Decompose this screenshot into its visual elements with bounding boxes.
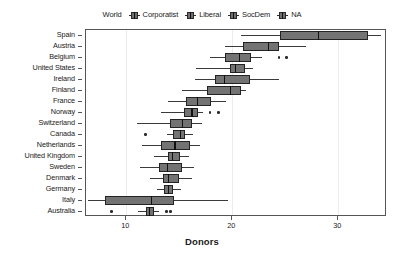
- median-line: [239, 53, 240, 62]
- boxplot-row: [86, 41, 385, 52]
- median-line: [230, 86, 231, 95]
- boxplot-row: [86, 63, 385, 74]
- legend-label: SocDem: [242, 11, 270, 19]
- legend-label: NA: [291, 11, 301, 19]
- boxplot-row: [86, 162, 385, 173]
- median-line: [168, 185, 169, 194]
- y-tick-label-ireland: Ireland: [53, 75, 75, 82]
- boxplot-row: [86, 107, 385, 118]
- outlier-point: [217, 111, 220, 114]
- y-tick-label-italy: Italy: [62, 196, 75, 203]
- y-tick-mark: [78, 200, 82, 201]
- y-tick-mark: [78, 145, 82, 146]
- legend-entry-corporatist: Corporatist: [129, 11, 179, 19]
- y-axis: SpainAustriaBelgiumUnited StatesIrelandF…: [0, 29, 82, 216]
- y-tick-label-belgium: Belgium: [49, 53, 75, 60]
- outlier-point: [110, 210, 113, 213]
- x-tick-label: 20: [227, 222, 235, 229]
- y-tick-mark: [78, 178, 82, 179]
- y-tick-mark: [78, 123, 82, 124]
- chart-legend: WorldCorporatistLiberalSocDemNA: [0, 11, 404, 19]
- y-tick-mark: [78, 90, 82, 91]
- x-tick-label: 10: [121, 222, 129, 229]
- box-iqr: [215, 75, 250, 84]
- boxplot-row: [86, 151, 385, 162]
- box-iqr: [170, 119, 192, 128]
- y-tick-label-austria: Austria: [53, 42, 75, 49]
- y-tick-label-switzerland: Switzerland: [38, 119, 75, 126]
- outlier-point: [209, 111, 212, 114]
- x-tick-mark: [231, 216, 232, 220]
- box-iqr: [230, 64, 245, 73]
- median-line: [180, 130, 181, 139]
- median-line: [182, 119, 183, 128]
- boxplot-row: [86, 195, 385, 206]
- median-line: [197, 97, 198, 106]
- box-iqr: [186, 97, 211, 106]
- y-tick-mark: [78, 57, 82, 58]
- y-tick-mark: [78, 156, 82, 157]
- y-tick-mark: [78, 46, 82, 47]
- outlier-point: [165, 210, 168, 213]
- median-line: [168, 174, 169, 183]
- y-tick-mark: [78, 101, 82, 102]
- box-iqr: [243, 42, 279, 51]
- legend-entry-liberal: Liberal: [185, 11, 221, 19]
- median-line: [151, 196, 152, 205]
- boxplot-row: [86, 52, 385, 63]
- legend-box-icon: [129, 11, 140, 19]
- boxplot-row: [86, 129, 385, 140]
- legend-box-icon: [185, 11, 196, 19]
- plot-panel: [85, 29, 386, 216]
- y-tick-mark: [78, 189, 82, 190]
- y-tick-mark: [78, 68, 82, 69]
- y-tick-label-germany: Germany: [46, 185, 75, 192]
- median-line: [224, 75, 225, 84]
- boxplot-row: [86, 140, 385, 151]
- boxplot-row: [86, 74, 385, 85]
- y-tick-label-united-kingdom: United Kingdom: [24, 152, 75, 159]
- boxplot-row: [86, 206, 385, 217]
- boxplot-row: [86, 173, 385, 184]
- median-line: [235, 64, 236, 73]
- y-tick-mark: [78, 167, 82, 168]
- y-tick-label-australia: Australia: [48, 207, 76, 214]
- y-tick-label-spain: Spain: [57, 31, 75, 38]
- median-line: [318, 31, 319, 40]
- boxplot-row: [86, 30, 385, 41]
- outlier-point: [285, 56, 288, 59]
- y-tick-mark: [78, 79, 82, 80]
- box-iqr: [280, 31, 368, 40]
- y-tick-label-france: France: [53, 97, 75, 104]
- y-tick-label-finland: Finland: [52, 86, 75, 93]
- y-tick-mark: [78, 211, 82, 212]
- boxplot-series: [86, 30, 385, 215]
- outlier-point: [278, 56, 281, 59]
- y-tick-label-united-states: United States: [32, 64, 75, 71]
- legend-box-icon: [228, 11, 239, 19]
- y-tick-label-norway: Norway: [51, 108, 75, 115]
- y-tick-label-netherlands: Netherlands: [37, 141, 75, 148]
- x-tick-mark: [125, 216, 126, 220]
- median-line: [167, 163, 168, 172]
- boxplot-row: [86, 96, 385, 107]
- y-tick-mark: [78, 134, 82, 135]
- x-tick-label: 30: [333, 222, 341, 229]
- x-axis-title: Donors: [0, 236, 404, 247]
- median-line: [174, 141, 175, 150]
- box-iqr: [168, 152, 181, 161]
- legend-entry-world: World: [103, 11, 122, 19]
- legend-box-icon: [277, 11, 288, 19]
- median-line: [268, 42, 269, 51]
- box-iqr: [163, 174, 179, 183]
- y-tick-label-sweden: Sweden: [49, 163, 75, 170]
- legend-entry-socdem: SocDem: [228, 11, 270, 19]
- median-line: [172, 152, 173, 161]
- outlier-point: [169, 210, 172, 213]
- box-iqr: [159, 163, 182, 172]
- outlier-point: [144, 133, 147, 136]
- median-line: [149, 207, 150, 216]
- box-iqr: [225, 53, 252, 62]
- x-tick-mark: [337, 216, 338, 220]
- boxplot-row: [86, 118, 385, 129]
